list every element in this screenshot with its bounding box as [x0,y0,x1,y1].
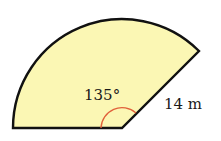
radius-label: 14 m [164,95,202,113]
sector-diagram: 135° 14 m [0,0,221,141]
angle-label: 135° [84,86,120,104]
